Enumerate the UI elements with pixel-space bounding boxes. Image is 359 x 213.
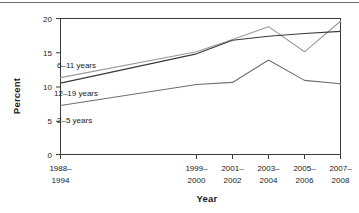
series-line-12-19-years bbox=[61, 31, 341, 83]
x-tick-label-line2: 2004 bbox=[260, 176, 278, 185]
series-label-2-5-years: 2–5 years bbox=[57, 116, 92, 125]
series-line-2-5-years bbox=[61, 60, 341, 106]
x-tick-label-line2: 2000 bbox=[188, 176, 206, 185]
x-tick-label-line2: 2008 bbox=[332, 176, 350, 185]
y-axis-tick-labels: 20 15 10 5 0 bbox=[43, 15, 52, 160]
x-tick-label-line1: 1988– bbox=[49, 164, 72, 173]
y-axis-title: Percent bbox=[11, 77, 22, 114]
x-axis-tick-labels: 1988– 1994 1999– 2000 2001– 2002 2003– 2… bbox=[49, 164, 352, 185]
x-tick-label-line2: 2006 bbox=[296, 176, 314, 185]
x-tick-label-line2: 1994 bbox=[52, 176, 70, 185]
chart-figure: 20 15 10 5 0 1988– 1994 1999– 2000 2001–… bbox=[0, 0, 359, 213]
y-tick-label: 20 bbox=[43, 15, 52, 24]
x-tick-label-line1: 2003– bbox=[257, 164, 280, 173]
y-tick-label: 10 bbox=[43, 83, 52, 92]
x-tick-label-line2: 2002 bbox=[224, 176, 242, 185]
line-chart-svg: 20 15 10 5 0 1988– 1994 1999– 2000 2001–… bbox=[0, 0, 359, 213]
y-tick-label: 0 bbox=[48, 151, 53, 160]
series-label-6-11-years: 6–11 years bbox=[57, 61, 96, 70]
x-tick-label-line1: 2001– bbox=[221, 164, 244, 173]
x-tick-label-line1: 1999– bbox=[185, 164, 208, 173]
series-label-12-19-years: 12–19 years bbox=[54, 89, 98, 98]
plot-frame bbox=[61, 19, 341, 155]
y-tick-label: 15 bbox=[43, 49, 52, 58]
x-axis-title: Year bbox=[197, 193, 218, 204]
y-tick-label: 5 bbox=[48, 117, 53, 126]
y-axis-ticks bbox=[56, 19, 61, 155]
x-tick-label-line1: 2007– bbox=[329, 164, 352, 173]
series-line-6-11-years bbox=[61, 21, 341, 77]
x-tick-label-line1: 2005– bbox=[293, 164, 316, 173]
x-axis-ticks bbox=[61, 155, 341, 160]
data-series-group bbox=[61, 21, 341, 105]
